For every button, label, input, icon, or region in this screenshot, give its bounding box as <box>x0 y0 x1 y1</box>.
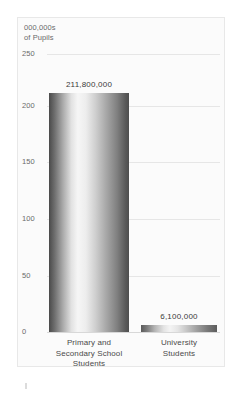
bar-fill-primary-secondary <box>49 93 129 332</box>
bar-primary-secondary-school-students[interactable] <box>49 93 129 332</box>
ytick-label-50: 50 <box>22 271 44 280</box>
value-label-primary-secondary: 211,800,000 <box>49 80 129 89</box>
ytick-label-100: 100 <box>22 214 44 223</box>
bar-fill-university <box>141 325 217 332</box>
ytick-label-200: 200 <box>22 101 44 110</box>
bar-university-students[interactable] <box>141 325 217 332</box>
ytick-label-150: 150 <box>22 157 44 166</box>
gridline-0 <box>47 332 220 333</box>
plot-area: 250 200 150 100 50 0 211,800,000 Primary… <box>18 18 224 366</box>
category-label-university: University Students <box>141 338 217 359</box>
chart-panel: 000,000s of Pupils 250 200 150 100 50 0 … <box>17 17 225 367</box>
category-label-primary-secondary: Primary and Secondary School Students <box>37 338 141 370</box>
ytick-label-250: 250 <box>22 49 44 58</box>
page-artifact-mark <box>25 383 27 389</box>
ytick-label-0: 0 <box>22 327 44 336</box>
value-label-university: 6,100,000 <box>141 312 217 321</box>
gridline-250 <box>47 54 220 55</box>
